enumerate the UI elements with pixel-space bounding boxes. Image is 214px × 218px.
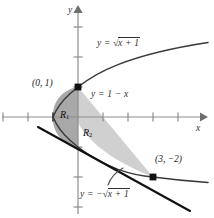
point-marker-3-neg2 xyxy=(150,174,157,181)
region-label-r1: R1 xyxy=(60,110,69,121)
region-label-r2: R2 xyxy=(83,128,92,139)
curve-label-sqrt-negative-radicand: x + 1 xyxy=(108,188,130,199)
math-figure: y = √x + 1 y = 1 − x y = −√x + 1 (0, 1) … xyxy=(0,0,214,218)
region-label-r2-subscript: 2 xyxy=(89,131,92,138)
region-label-r1-subscript: 1 xyxy=(66,113,69,120)
curve-label-sqrt-positive-radicand: x + 1 xyxy=(118,37,140,48)
curve-label-sqrt-negative-sign: − xyxy=(96,189,103,199)
curve-label-sqrt-negative: y = −√x + 1 xyxy=(80,190,130,200)
point-label-0-1: (0, 1) xyxy=(32,79,53,89)
point-label-3-neg2: (3, −2) xyxy=(155,155,182,165)
curve-label-sqrt-negative-lhs: y = xyxy=(80,189,94,199)
curve-label-line: y = 1 − x xyxy=(91,90,128,100)
curve-label-sqrt-positive-lhs: y = xyxy=(97,38,111,48)
x-axis-label: x xyxy=(196,124,200,134)
point-marker-0-1 xyxy=(75,84,82,91)
y-axis-label: y xyxy=(68,6,72,16)
y-axis-arrowhead xyxy=(73,5,82,13)
figure-canvas xyxy=(0,0,214,218)
curve-label-sqrt-positive: y = √x + 1 xyxy=(97,39,140,49)
axes-group xyxy=(2,5,208,214)
x-axis-arrowhead xyxy=(200,112,208,121)
